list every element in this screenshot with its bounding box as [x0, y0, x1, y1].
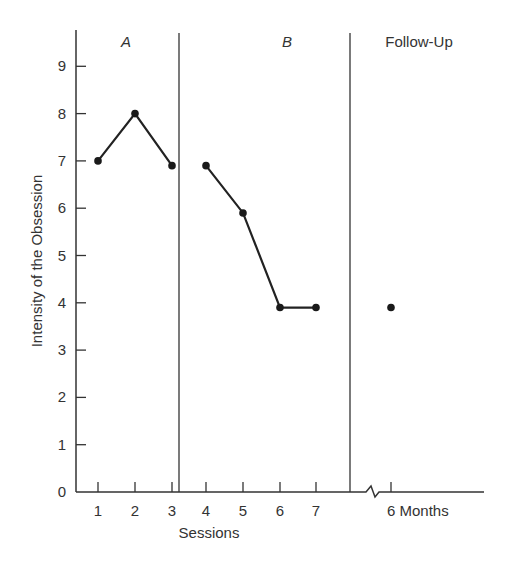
x-ticks: 12345676 Months: [94, 482, 449, 519]
data-point: [202, 162, 210, 170]
y-tick-label: 7: [58, 152, 66, 169]
data-point: [387, 304, 395, 312]
y-tick-label: 6: [58, 199, 66, 216]
y-tick-label: 3: [58, 341, 66, 358]
data-point: [312, 304, 320, 312]
y-tick-label: 5: [58, 247, 66, 264]
y-ticks: 0123456789: [58, 57, 86, 500]
y-tick-label: 9: [58, 57, 66, 74]
x-tick-label: 4: [202, 502, 210, 519]
y-tick-label: 2: [58, 388, 66, 405]
data-point: [131, 110, 139, 118]
y-tick-label: 1: [58, 436, 66, 453]
data-point: [168, 162, 176, 170]
data-point: [276, 304, 284, 312]
chart: 0123456789 12345676 Months A B Follow-Up…: [0, 0, 526, 566]
x-axis-title: Sessions: [179, 524, 240, 541]
y-tick-label: 4: [58, 294, 66, 311]
series-line-0: [98, 114, 172, 166]
phase-label-a: A: [120, 33, 131, 50]
phase-label-b: B: [282, 33, 292, 50]
phase-label-follow-up: Follow-Up: [385, 33, 453, 50]
x-tick-label: 7: [312, 502, 320, 519]
x-tick-label: 6 Months: [387, 502, 449, 519]
y-tick-label: 8: [58, 105, 66, 122]
x-tick-label: 3: [168, 502, 176, 519]
x-tick-label: 2: [131, 502, 139, 519]
x-tick-label: 1: [94, 502, 102, 519]
y-tick-label: 0: [58, 483, 66, 500]
y-axis-title: Intensity of the Obsession: [28, 175, 45, 348]
series-line-1: [206, 166, 316, 308]
x-tick-label: 5: [239, 502, 247, 519]
data-point: [94, 157, 102, 165]
data-point: [239, 209, 247, 217]
x-tick-label: 6: [276, 502, 284, 519]
